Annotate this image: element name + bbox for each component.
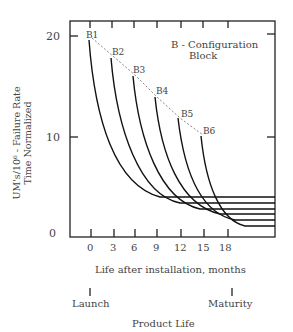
x-tick-15: 15 bbox=[197, 242, 210, 253]
y-tick-20: 20 bbox=[46, 30, 60, 43]
legend-line2: Block bbox=[189, 50, 217, 61]
y-axis-label-line2: Time Normalized bbox=[22, 53, 33, 233]
product-life-label: Product Life bbox=[132, 318, 195, 329]
series-label-b2: B2 bbox=[112, 47, 124, 57]
series-label-b4: B4 bbox=[156, 86, 168, 96]
plot-frame bbox=[70, 21, 275, 237]
x-tick-9: 9 bbox=[153, 242, 159, 253]
dashed-envelope-line bbox=[92, 38, 203, 135]
y-tick-10: 10 bbox=[46, 131, 60, 144]
launch-label: Launch bbox=[72, 298, 110, 309]
product-life-markers bbox=[90, 288, 232, 296]
curve-b6 bbox=[201, 136, 275, 226]
x-axis-label: Life after installation, months bbox=[95, 264, 246, 275]
x-ticks-top bbox=[90, 21, 228, 28]
curve-b5 bbox=[178, 118, 275, 220]
y-axis-label: UM's/10⁶ - Failure Rate Time Normalized bbox=[11, 53, 41, 233]
series-label-b1: B1 bbox=[86, 30, 98, 40]
x-ticks-bottom bbox=[91, 229, 228, 237]
maturity-label: Maturity bbox=[208, 298, 252, 309]
series-label-b5: B5 bbox=[181, 109, 193, 119]
x-tick-18: 18 bbox=[219, 242, 232, 253]
x-tick-3: 3 bbox=[110, 242, 116, 253]
legend-line1: B - Configuration bbox=[171, 39, 258, 50]
decay-curves bbox=[89, 40, 275, 226]
x-tick-6: 6 bbox=[131, 242, 137, 253]
series-label-b6: B6 bbox=[203, 126, 215, 136]
y-axis-label-line1: UM's/10⁶ - Failure Rate bbox=[11, 53, 22, 233]
y-tick-0: 0 bbox=[49, 227, 56, 240]
series-label-b3: B3 bbox=[133, 65, 145, 75]
x-tick-0: 0 bbox=[87, 242, 93, 253]
x-tick-12: 12 bbox=[174, 242, 187, 253]
